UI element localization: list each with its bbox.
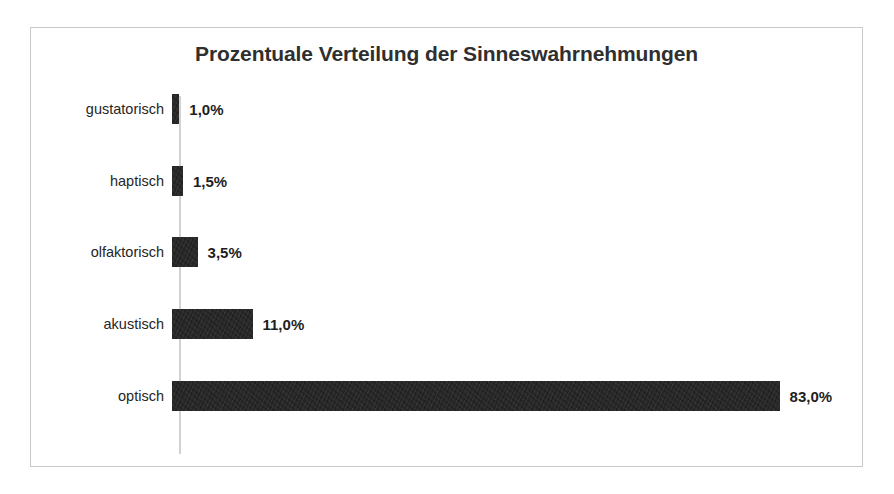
category-label-olfaktorisch: olfaktorisch [31, 244, 172, 260]
category-label-haptisch: haptisch [31, 173, 172, 189]
bar-track: 11,0% [172, 309, 864, 339]
bar-row: olfaktorisch 3,5% [31, 237, 864, 267]
bar-track: 3,5% [172, 237, 864, 267]
plot-area: gustatorisch 1,0% haptisch 1,5% olfaktor… [31, 94, 864, 462]
chart-figure: Prozentuale Verteilung der Sinneswahrneh… [30, 27, 863, 467]
category-label-akustisch: akustisch [31, 316, 172, 332]
bar-value-haptisch: 1,5% [193, 173, 227, 190]
bar-track: 83,0% [172, 381, 864, 411]
category-label-optisch: optisch [31, 388, 172, 404]
bar-value-optisch: 83,0% [790, 388, 833, 405]
bar-optisch [172, 381, 780, 411]
bar-value-akustisch: 11,0% [263, 316, 305, 333]
bar-track: 1,0% [172, 94, 864, 124]
bar-row: optisch 83,0% [31, 381, 864, 411]
bar-value-gustatorisch: 1,0% [189, 101, 223, 118]
chart-title: Prozentuale Verteilung der Sinneswahrneh… [31, 42, 862, 66]
category-label-gustatorisch: gustatorisch [31, 101, 172, 117]
bar-row: gustatorisch 1,0% [31, 94, 864, 124]
bar-track: 1,5% [172, 166, 864, 196]
bar-row: haptisch 1,5% [31, 166, 864, 196]
bar-value-olfaktorisch: 3,5% [208, 244, 242, 261]
bar-gustatorisch [172, 94, 179, 124]
bar-row: akustisch 11,0% [31, 309, 864, 339]
bar-akustisch [172, 309, 253, 339]
bar-olfaktorisch [172, 237, 198, 267]
bar-haptisch [172, 166, 183, 196]
